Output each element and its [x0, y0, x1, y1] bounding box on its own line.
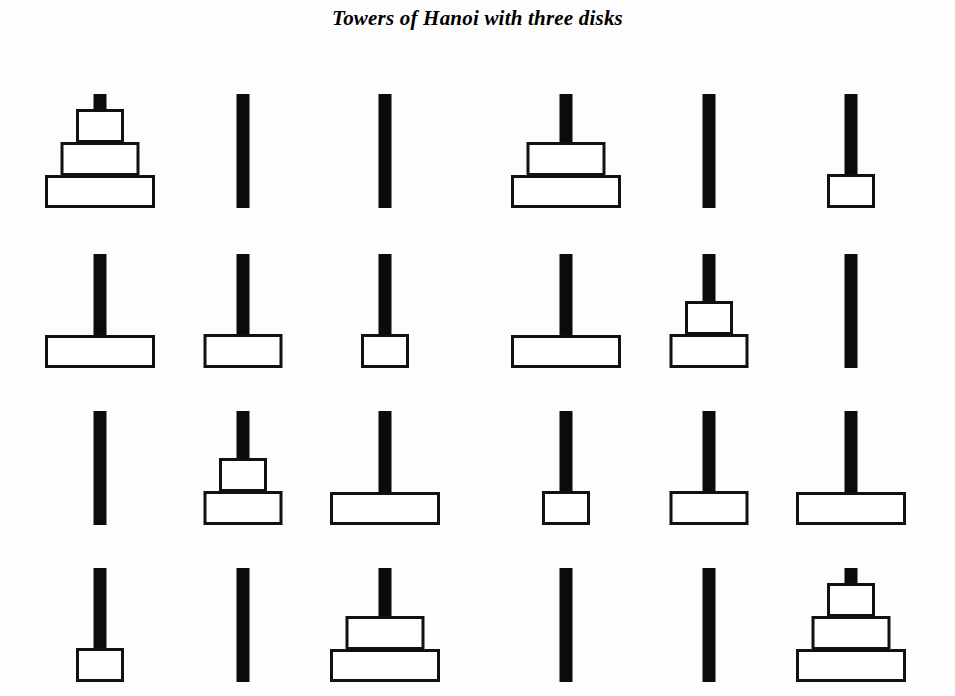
peg-b-state-6[interactable]	[649, 395, 769, 525]
peg-c-state-7[interactable]	[325, 552, 445, 682]
hanoi-state-5	[40, 365, 445, 525]
peg-b-state-4[interactable]	[649, 238, 769, 368]
peg-b-state-7[interactable]	[183, 552, 303, 682]
disk-size-1[interactable]	[219, 458, 267, 492]
peg-b-state-5[interactable]	[183, 395, 303, 525]
disk-size-1[interactable]	[76, 648, 124, 682]
disk-size-1[interactable]	[76, 109, 124, 143]
peg-b-state-1[interactable]	[183, 78, 303, 208]
peg-c-state-6[interactable]	[791, 395, 911, 525]
disk-size-3[interactable]	[330, 492, 440, 525]
hanoi-diagram	[0, 0, 955, 696]
peg-c-state-2[interactable]	[791, 78, 911, 208]
disk-size-2[interactable]	[527, 142, 606, 176]
disk-size-3[interactable]	[45, 335, 155, 368]
hanoi-row-1	[0, 48, 955, 208]
disk-size-1[interactable]	[685, 301, 733, 335]
peg-a-state-7[interactable]	[40, 552, 160, 682]
peg-b-state-2[interactable]	[649, 78, 769, 208]
disk-size-3[interactable]	[511, 175, 621, 208]
hanoi-row-4	[0, 522, 955, 682]
peg-post-icon	[237, 94, 250, 208]
hanoi-state-1	[40, 48, 445, 208]
disk-size-1[interactable]	[542, 491, 590, 525]
peg-a-state-2[interactable]	[506, 78, 626, 208]
peg-a-state-4[interactable]	[506, 238, 626, 368]
peg-c-state-1[interactable]	[325, 78, 445, 208]
peg-a-state-6[interactable]	[506, 395, 626, 525]
disk-size-1[interactable]	[361, 334, 409, 368]
peg-b-state-8[interactable]	[649, 552, 769, 682]
peg-b-state-3[interactable]	[183, 238, 303, 368]
disk-size-3[interactable]	[796, 492, 906, 525]
disk-size-3[interactable]	[45, 175, 155, 208]
peg-post-icon	[94, 411, 107, 525]
peg-post-icon	[379, 94, 392, 208]
hanoi-state-6	[506, 365, 911, 525]
disk-size-3[interactable]	[796, 649, 906, 682]
hanoi-state-8	[506, 522, 911, 682]
peg-a-state-3[interactable]	[40, 238, 160, 368]
disk-size-2[interactable]	[812, 616, 891, 650]
disk-size-2[interactable]	[204, 491, 283, 525]
disk-size-1[interactable]	[827, 583, 875, 617]
peg-post-icon	[703, 94, 716, 208]
disk-size-3[interactable]	[330, 649, 440, 682]
hanoi-state-2	[506, 48, 911, 208]
hanoi-row-2	[0, 208, 955, 368]
peg-c-state-5[interactable]	[325, 395, 445, 525]
disk-size-2[interactable]	[670, 334, 749, 368]
peg-a-state-1[interactable]	[40, 78, 160, 208]
peg-post-icon	[703, 568, 716, 682]
peg-a-state-8[interactable]	[506, 552, 626, 682]
peg-a-state-5[interactable]	[40, 395, 160, 525]
disk-size-2[interactable]	[61, 142, 140, 176]
peg-post-icon	[845, 254, 858, 368]
disk-size-3[interactable]	[511, 335, 621, 368]
hanoi-state-4	[506, 208, 911, 368]
disk-size-2[interactable]	[670, 491, 749, 525]
hanoi-row-3	[0, 365, 955, 525]
peg-c-state-8[interactable]	[791, 552, 911, 682]
peg-post-icon	[560, 568, 573, 682]
disk-size-2[interactable]	[346, 616, 425, 650]
peg-c-state-3[interactable]	[325, 238, 445, 368]
peg-c-state-4[interactable]	[791, 238, 911, 368]
hanoi-state-7	[40, 522, 445, 682]
disk-size-1[interactable]	[827, 174, 875, 208]
hanoi-state-3	[40, 208, 445, 368]
peg-post-icon	[237, 568, 250, 682]
disk-size-2[interactable]	[204, 334, 283, 368]
